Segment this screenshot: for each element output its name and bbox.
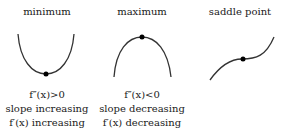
maximum-curve <box>114 35 171 78</box>
saddle-point <box>241 57 246 62</box>
saddle-curve <box>210 37 274 80</box>
maximum-point <box>140 35 145 40</box>
maximum-first-derivative: f′(x) decreasing <box>87 116 197 130</box>
maximum-caption: f″(x)<0 slope decreasing f′(x) decreasin… <box>87 88 197 130</box>
minimum-point <box>44 72 49 77</box>
maximum-second-derivative: f″(x)<0 <box>87 88 197 102</box>
maximum-slope-text: slope decreasing <box>87 102 197 116</box>
minimum-curve <box>18 34 74 77</box>
